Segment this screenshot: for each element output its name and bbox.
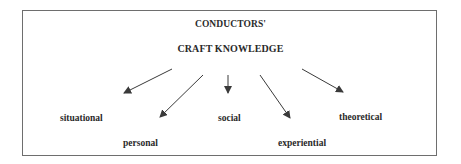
label-social: social <box>218 113 241 123</box>
arrow-to-situational <box>124 69 172 93</box>
label-situational: situational <box>60 113 103 123</box>
label-personal: personal <box>123 138 158 148</box>
arrows-layer <box>0 0 461 164</box>
arrow-to-personal <box>160 75 203 117</box>
arrow-to-experiential <box>260 75 290 118</box>
label-experiential: experiential <box>278 138 326 148</box>
arrow-to-theoretical <box>302 69 343 92</box>
label-theoretical: theoretical <box>339 112 382 122</box>
